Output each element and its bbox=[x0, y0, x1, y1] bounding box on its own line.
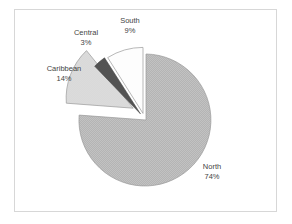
page-header-strip bbox=[0, 0, 292, 3]
pie-label-central-percent: 3% bbox=[65, 38, 107, 48]
pie-label-central: Central 3% bbox=[65, 28, 107, 47]
pie-label-caribbean-percent: 14% bbox=[37, 74, 91, 84]
pie-label-south-percent: 9% bbox=[107, 26, 153, 36]
pie-label-central-name: Central bbox=[65, 28, 107, 38]
pie-label-north: North 74% bbox=[190, 162, 234, 181]
pie-label-caribbean-name: Caribbean bbox=[37, 64, 91, 74]
pie-label-south-name: South bbox=[107, 16, 153, 26]
pie-label-caribbean: Caribbean 14% bbox=[37, 64, 91, 83]
pie-label-south: South 9% bbox=[107, 16, 153, 35]
pie-label-north-percent: 74% bbox=[190, 172, 234, 182]
pie-chart: South 9% Central 3% Caribbean 14% North … bbox=[15, 10, 278, 213]
pie-chart-svg bbox=[15, 10, 278, 213]
pie-label-north-name: North bbox=[190, 162, 234, 172]
chart-frame: South 9% Central 3% Caribbean 14% North … bbox=[14, 9, 277, 212]
